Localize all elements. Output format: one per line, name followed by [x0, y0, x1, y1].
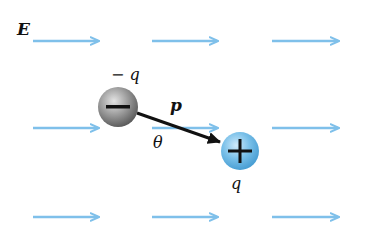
positive-charge: [221, 132, 259, 170]
dipole-moment-label: p: [170, 95, 182, 115]
angle-label: θ: [153, 133, 163, 152]
negative-charge: [98, 87, 138, 127]
negative-charge-label: − q: [111, 65, 140, 84]
electric-dipole-diagram: E − q q p θ: [0, 0, 375, 242]
positive-charge-label: q: [231, 174, 241, 193]
field-label: E: [16, 19, 31, 39]
plus-sign-vertical-icon: [239, 139, 242, 163]
minus-sign-icon: [106, 105, 130, 109]
